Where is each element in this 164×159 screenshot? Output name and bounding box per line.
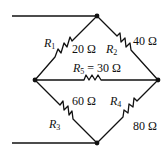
r5-label: R5 = 30 Ω (73, 62, 121, 76)
r2-label: R2 (106, 43, 117, 57)
wheatstone-bridge-diagram: R1 20 Ω R2 40 Ω R5 = 30 Ω 60 Ω R3 R4 80 … (0, 0, 164, 159)
node-bottom (95, 141, 100, 146)
node-top (95, 14, 100, 19)
circuit-wires (0, 0, 164, 159)
r1-value: 20 Ω (72, 43, 96, 55)
r4-value: 80 Ω (133, 120, 157, 132)
r2-value: 40 Ω (133, 35, 157, 47)
r3-value: 60 Ω (72, 95, 96, 107)
node-left (33, 78, 38, 83)
r3-label: R3 (49, 118, 60, 132)
node-right (156, 78, 161, 83)
r4-label: R4 (110, 95, 121, 109)
r1-label: R1 (44, 37, 55, 51)
